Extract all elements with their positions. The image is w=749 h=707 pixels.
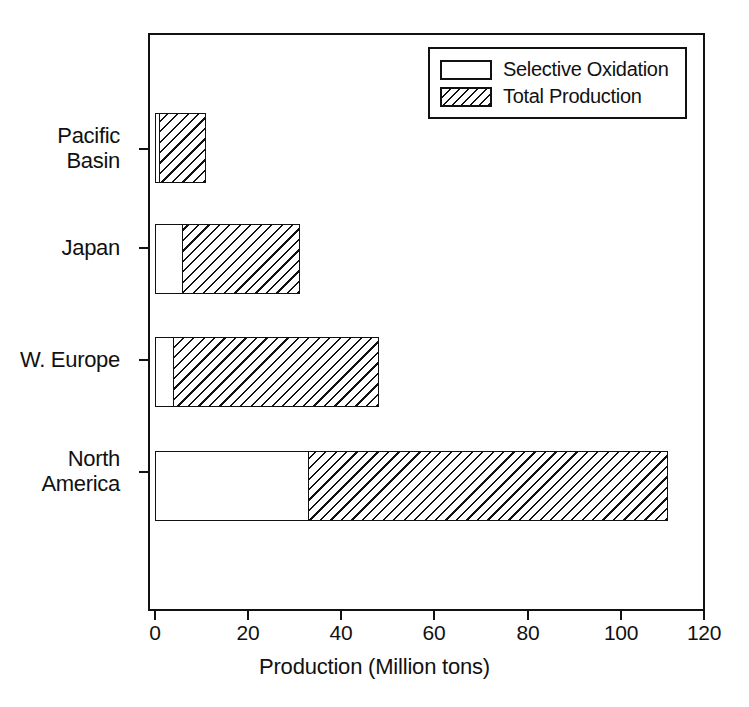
bar-selective-oxidation-north-america xyxy=(155,451,309,521)
legend: Selective Oxidation Total Production xyxy=(428,47,687,119)
xtick-80 xyxy=(527,611,529,620)
ytick-label-north-america: North America xyxy=(0,446,120,496)
bar-group-north-america xyxy=(155,451,668,521)
legend-item-selective-oxidation: Selective Oxidation xyxy=(440,56,677,83)
ytick-label-north-america-line1: North xyxy=(0,446,120,471)
legend-swatch-hatched-icon xyxy=(440,87,492,107)
ytick-north-america xyxy=(139,471,148,473)
xtick-label-20: 20 xyxy=(213,621,283,645)
legend-label-total-production: Total Production xyxy=(503,85,642,108)
ytick-label-north-america-line2: America xyxy=(0,471,120,496)
x-axis-title: Production (Million tons) xyxy=(0,654,749,680)
ytick-japan xyxy=(139,247,148,249)
xtick-20 xyxy=(247,611,249,620)
bar-group-w-europe xyxy=(155,337,379,407)
ytick-label-japan: Japan xyxy=(0,235,120,260)
bar-total-production-pacific-basin xyxy=(155,113,206,183)
bar-chart: Pacific Basin Japan W. Europe North Amer… xyxy=(0,0,749,707)
legend-swatch-plain-icon xyxy=(440,60,492,80)
xtick-0 xyxy=(154,611,156,620)
ytick-w-europe xyxy=(139,359,148,361)
xtick-label-60: 60 xyxy=(399,621,469,645)
xtick-label-100: 100 xyxy=(586,621,656,645)
legend-item-total-production: Total Production xyxy=(440,83,677,110)
bar-group-japan xyxy=(155,224,300,294)
xtick-label-40: 40 xyxy=(306,621,376,645)
bar-group-pacific-basin xyxy=(155,113,206,183)
ytick-label-pacific-basin: Pacific Basin xyxy=(0,123,120,173)
legend-label-selective-oxidation: Selective Oxidation xyxy=(503,58,669,81)
bar-selective-oxidation-japan xyxy=(155,224,183,294)
xtick-40 xyxy=(340,611,342,620)
ytick-label-w-europe-line1: W. Europe xyxy=(0,347,120,372)
xtick-60 xyxy=(433,611,435,620)
bar-total-production-w-europe xyxy=(155,337,379,407)
ytick-label-w-europe: W. Europe xyxy=(0,347,120,372)
xtick-120 xyxy=(703,611,705,620)
xtick-label-120: 120 xyxy=(669,621,739,645)
xtick-label-0: 0 xyxy=(120,621,190,645)
bar-selective-oxidation-pacific-basin xyxy=(155,113,160,183)
ytick-label-pacific-basin-line2: Basin xyxy=(0,148,120,173)
ytick-label-pacific-basin-line1: Pacific xyxy=(0,123,120,148)
ytick-pacific-basin xyxy=(139,148,148,150)
xtick-label-80: 80 xyxy=(493,621,563,645)
plot-area xyxy=(148,33,705,611)
xtick-100 xyxy=(620,611,622,620)
ytick-label-japan-line1: Japan xyxy=(0,235,120,260)
bar-selective-oxidation-w-europe xyxy=(155,337,174,407)
